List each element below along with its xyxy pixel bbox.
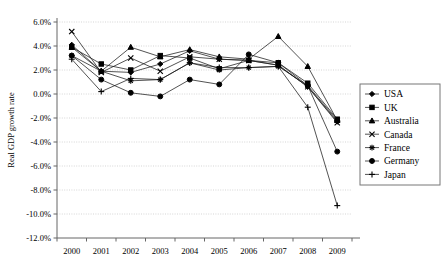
series-germany [69,52,339,154]
line-chart: 6.0%4.0%2.0%0.0%-2.0%-4.0%-6.0%-8.0%-10.… [0,0,445,279]
square-marker [99,62,103,66]
y-tick-label: -8.0% [30,185,51,195]
circle-marker [158,94,163,99]
x-tick-label: 2005 [211,246,228,256]
x-marker [158,69,163,74]
asterisk-marker [369,145,375,151]
x-tick-label: 2002 [122,246,139,256]
series-line [72,54,338,151]
circle-marker [99,77,104,82]
x-tick-label: 2000 [63,246,80,256]
legend-label: Germany [384,156,420,166]
series-line [72,59,338,205]
asterisk-marker [334,118,340,124]
x-tick-label: 2006 [240,246,257,256]
x-tick-label: 2001 [93,246,110,256]
triangle-marker [187,47,192,52]
circle-marker [128,90,133,95]
y-axis-title: Real GDP growth rate [6,92,16,168]
asterisk-marker [98,68,104,74]
gridlines [57,22,352,214]
circle-marker [217,82,222,87]
x-tick-label: 2004 [181,246,199,256]
x-marker [69,29,74,34]
triangle-marker [276,34,281,39]
series-line [72,36,338,120]
y-tick-label: -6.0% [30,161,51,171]
legend-label: USA [384,89,403,99]
legend-label: Japan [384,170,406,180]
y-tick-label: -10.0% [26,209,51,219]
legend-label: Australia [384,116,420,126]
x-tick-label: 2009 [329,246,346,256]
circle-marker [246,52,251,57]
y-axis-tick-labels: 6.0%4.0%2.0%0.0%-2.0%-4.0%-6.0%-8.0%-10.… [26,17,51,243]
y-tick-label: 4.0% [33,41,51,51]
y-tick-label: 0.0% [33,89,51,99]
diamond-marker [158,61,163,66]
x-tick-label: 2003 [152,246,169,256]
x-tick-label: 2008 [299,246,316,256]
series-australia [69,34,340,123]
data-series [69,29,340,209]
circle-marker [370,159,375,164]
plus-marker [334,203,340,209]
y-tick-label: -2.0% [30,113,51,123]
triangle-marker [128,44,133,49]
plus-marker [246,65,252,71]
y-tick-label: 2.0% [33,65,51,75]
legend-label: France [384,143,410,153]
axes [54,18,361,242]
plus-marker [157,77,163,83]
plus-marker [305,104,311,110]
chart-legend: USAUKAustraliaCanadaFranceGermanyJapan [360,84,440,185]
x-tick-label: 2007 [270,246,287,256]
chart-container: 6.0%4.0%2.0%0.0%-2.0%-4.0%-6.0%-8.0%-10.… [0,0,445,279]
circle-marker [305,83,310,88]
x-marker [128,55,133,60]
y-tick-label: -4.0% [30,137,51,147]
x-axis-tick-labels: 2000200120022003200420052006200720082009 [63,246,346,256]
legend-label: Canada [384,130,413,140]
square-marker [370,105,374,109]
square-marker [129,68,133,72]
legend-label: UK [384,103,398,113]
y-tick-label: 6.0% [33,17,51,27]
circle-marker [335,149,340,154]
y-tick-label: -12.0% [26,233,51,243]
circle-marker [187,77,192,82]
triangle-marker [217,54,222,59]
